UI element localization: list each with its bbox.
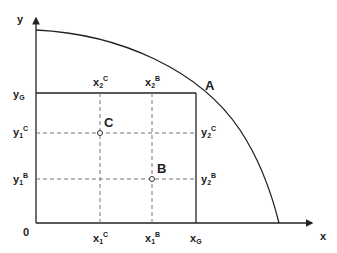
y1B-label: y1B xyxy=(13,172,28,186)
y2C-label: y2C xyxy=(201,125,216,139)
origin-label: 0 xyxy=(23,226,29,238)
point-B-label: B xyxy=(157,161,166,176)
point-A-label: A xyxy=(205,78,215,93)
x2B-label: x2B xyxy=(145,75,160,89)
x-axis-label: x xyxy=(320,230,327,242)
yG-label: yG xyxy=(13,88,25,101)
x1B-label: x1B xyxy=(145,231,160,245)
point-C xyxy=(98,131,103,136)
y1C-label: y1C xyxy=(13,125,28,139)
production-possibility-diagram: A B C y x 0 yG y1C y1B y2C y2B x2C x2B x… xyxy=(0,0,337,253)
point-C-label: C xyxy=(104,115,114,130)
y2B-label: y2B xyxy=(201,172,216,186)
point-B xyxy=(150,177,155,182)
x1C-label: x1C xyxy=(93,231,108,245)
x2C-label: x2C xyxy=(93,75,108,89)
frontier-curve xyxy=(36,30,279,223)
y-axis-label: y xyxy=(17,13,24,25)
xG-label: xG xyxy=(190,232,202,245)
